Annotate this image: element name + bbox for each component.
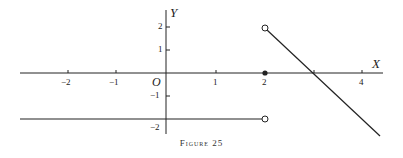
filled-point [262, 70, 267, 75]
y-tick-label: −1 [150, 90, 160, 100]
open-endpoint-left [262, 116, 268, 122]
y-tick-label: 2 [158, 21, 163, 31]
x-axis-label: X [372, 56, 380, 72]
figure-caption: Figure 25 [0, 138, 403, 148]
origin-label: O [152, 75, 161, 90]
x-tick-label: 2 [262, 77, 267, 87]
y-tick-label: −2 [150, 122, 160, 132]
y-axis-label: Y [170, 5, 177, 21]
x-tick-label: −1 [109, 77, 119, 87]
x-tick-label: 1 [213, 77, 218, 87]
x-tick-label: 4 [359, 77, 364, 87]
y-tick-label: 1 [158, 44, 163, 54]
open-endpoint-right [262, 25, 268, 31]
x-tick-label: −2 [61, 77, 71, 87]
